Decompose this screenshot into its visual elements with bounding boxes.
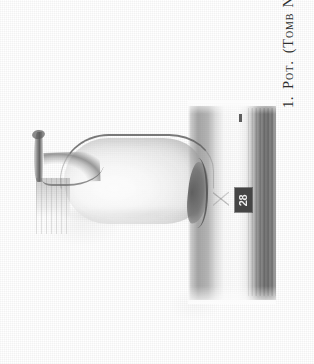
caption-provenance-number-label: No. (281, 0, 296, 8)
plate-page: 28 1. Pot. ( Tomb No. 28 ) (0, 0, 314, 364)
artifact-photograph: 28 (30, 96, 276, 304)
caption-object-label: Pot. (281, 60, 296, 89)
specimen-number-tag-value: 28 (238, 194, 249, 206)
caption-open-paren: ( (281, 48, 296, 53)
pot-rim (34, 132, 43, 183)
specimen-number-tag: 28 (235, 188, 252, 212)
figure-caption: 1. Pot. ( Tomb No. 28 ) (276, 0, 300, 108)
caption-provenance-label: Tomb (281, 13, 296, 48)
pencil-scribble-mark (213, 192, 229, 206)
pot-rim-lip (31, 129, 46, 141)
emulsion-streaks (36, 178, 70, 234)
backdrop-nick-mark (239, 114, 242, 122)
backdrop-streaks (248, 108, 276, 296)
figure-caption-text: 1. Pot. ( Tomb No. 28 ) (281, 0, 296, 108)
caption-figure-number: 1. (281, 96, 296, 108)
